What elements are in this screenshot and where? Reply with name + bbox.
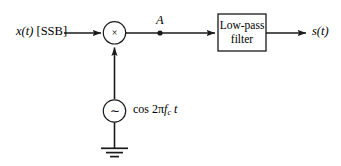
input-signal-label: x(t) [SSB] (16, 25, 67, 38)
oscillator-expression-label: cos 2πfc t (133, 103, 177, 117)
output-signal-label: s(t) (312, 25, 329, 38)
block-diagram-canvas: × ∼ x(t) [SSB] A Low-pass filter s(t) co… (0, 0, 341, 166)
multiply-icon: × (109, 27, 120, 38)
node-label-a: A (156, 14, 164, 27)
sine-wave-icon: ∼ (107, 104, 122, 118)
lowpass-filter-label: Low-pass filter (218, 14, 266, 51)
lowpass-filter-label-line2: filter (231, 33, 253, 46)
lowpass-filter-label-line1: Low-pass (220, 19, 265, 32)
oscillator-time-symbol: t (174, 102, 177, 116)
input-signal-annotation: [SSB] (36, 24, 67, 38)
node-dot-a (157, 30, 162, 35)
oscillator-cos-prefix: cos 2 (133, 102, 158, 116)
input-signal-expression: x(t) (16, 24, 33, 38)
